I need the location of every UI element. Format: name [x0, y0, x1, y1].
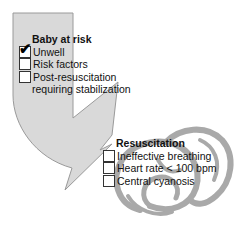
item-label: Post-resuscitation	[33, 71, 116, 84]
resuscitation-section: Resuscitation Ineffective breathing Hear…	[103, 137, 217, 187]
checkbox-heart-rate[interactable]	[103, 162, 115, 174]
item-label-continuation: requiring stabilization	[19, 83, 131, 96]
item-label: Unwell	[33, 46, 65, 59]
item-label: Risk factors	[33, 58, 88, 71]
checklist-item-heart-rate[interactable]: Heart rate < 100 bpm	[103, 162, 217, 175]
baby-at-risk-section: Baby at risk ✔ Unwell Risk factors Post-…	[19, 33, 131, 96]
checklist-item-ineffective-breathing[interactable]: Ineffective breathing	[103, 150, 217, 163]
item-label: Central cyanosis	[117, 175, 195, 188]
checkbox-post-resuscitation[interactable]	[19, 71, 31, 83]
checkbox-central-cyanosis[interactable]	[103, 175, 115, 187]
checklist-item-unwell[interactable]: ✔ Unwell	[19, 46, 131, 59]
checklist-item-central-cyanosis[interactable]: Central cyanosis	[103, 175, 217, 188]
checkmark-icon: ✔	[19, 41, 32, 56]
checkbox-unwell[interactable]: ✔	[19, 46, 31, 58]
checklist-item-risk-factors[interactable]: Risk factors	[19, 58, 131, 71]
baby-at-risk-title: Baby at risk	[19, 33, 131, 46]
item-label: Heart rate < 100 bpm	[117, 162, 217, 175]
item-label: Ineffective breathing	[117, 150, 211, 163]
checklist-item-post-resuscitation[interactable]: Post-resuscitation	[19, 71, 131, 84]
checkbox-risk-factors[interactable]	[19, 58, 31, 70]
resuscitation-title: Resuscitation	[103, 137, 217, 150]
checkbox-ineffective-breathing[interactable]	[103, 150, 115, 162]
